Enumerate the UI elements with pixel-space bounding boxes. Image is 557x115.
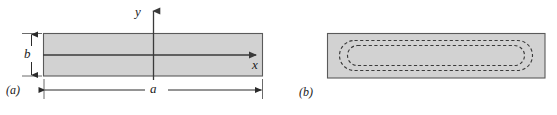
figure-container: y x b a (a) (b) [0, 0, 557, 115]
dimension-a-label: a [150, 82, 157, 95]
panel-a-caption: (a) [6, 84, 20, 96]
figure-drawing [0, 0, 557, 115]
panel-b-group [328, 34, 546, 79]
x-axis-label: x [252, 58, 258, 71]
dimension-b-label: b [24, 47, 31, 60]
panel-a-group [22, 11, 263, 99]
panel-b-caption: (b) [299, 86, 313, 98]
y-axis-label: y [135, 5, 141, 18]
